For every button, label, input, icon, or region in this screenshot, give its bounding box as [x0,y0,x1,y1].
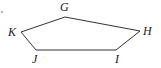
vertex-label-j: J [32,52,38,66]
pentagon-ghijk [21,17,140,50]
vertex-label-h: H [142,24,153,38]
vertex-label-g: G [60,0,69,14]
stray-dot [1,11,3,13]
vertex-label-k: K [7,25,17,39]
vertex-label-i: I [114,52,120,66]
pentagon-diagram: G H I J K [0,0,161,68]
